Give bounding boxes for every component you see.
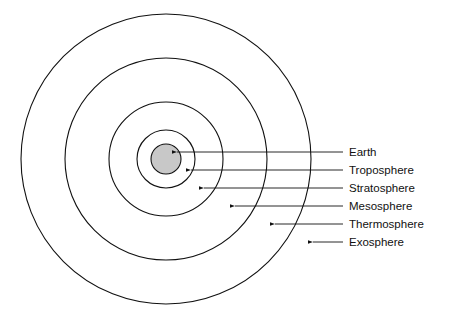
label-earth: Earth	[349, 145, 377, 159]
earth-circle	[151, 144, 181, 174]
label-mesosphere: Mesosphere	[349, 199, 412, 213]
atmosphere-diagram	[0, 0, 450, 314]
label-troposphere: Troposphere	[349, 163, 414, 177]
label-thermosphere: Thermosphere	[349, 217, 424, 231]
label-exosphere: Exosphere	[349, 235, 404, 249]
label-stratosphere: Stratosphere	[349, 181, 415, 195]
